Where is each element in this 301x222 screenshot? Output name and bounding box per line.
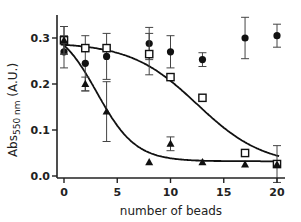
y-ticks: 0.00.10.20.3	[31, 32, 58, 183]
triangle-marker	[81, 80, 89, 87]
x-tick-label: 15	[216, 186, 231, 199]
circle-marker	[82, 60, 89, 67]
circle-marker	[199, 56, 206, 63]
x-axis-title: number of beads	[120, 204, 222, 218]
x-tick-label: 10	[163, 186, 179, 199]
square-marker	[146, 51, 153, 58]
plot-area	[60, 17, 281, 182]
circle-marker	[167, 48, 174, 55]
square-marker	[199, 94, 206, 101]
circle-marker	[241, 34, 248, 41]
square-marker	[167, 74, 174, 81]
chart: 0.00.10.20.3 05101520 number of beads Ab…	[0, 0, 301, 222]
y-tick-label: 0.1	[31, 124, 51, 137]
fit-curve	[61, 45, 279, 157]
y-tick-label: 0.0	[31, 170, 51, 183]
y-tick-label: 0.3	[31, 32, 51, 45]
x-tick-label: 20	[269, 186, 285, 199]
triangle-marker	[103, 107, 111, 114]
triangle-marker	[145, 158, 153, 165]
x-tick-label: 0	[60, 186, 68, 199]
y-axis-title: Abs550 nm (A.U.)	[6, 63, 22, 157]
square-marker	[82, 45, 89, 52]
y-tick-label: 0.2	[31, 78, 51, 91]
square-marker	[103, 45, 110, 52]
x-ticks: 05101520	[60, 178, 285, 199]
x-tick-label: 5	[113, 186, 121, 199]
square-marker	[241, 149, 248, 156]
circle-marker	[273, 32, 280, 39]
circle-marker	[103, 53, 110, 60]
triangle-marker	[167, 140, 175, 147]
